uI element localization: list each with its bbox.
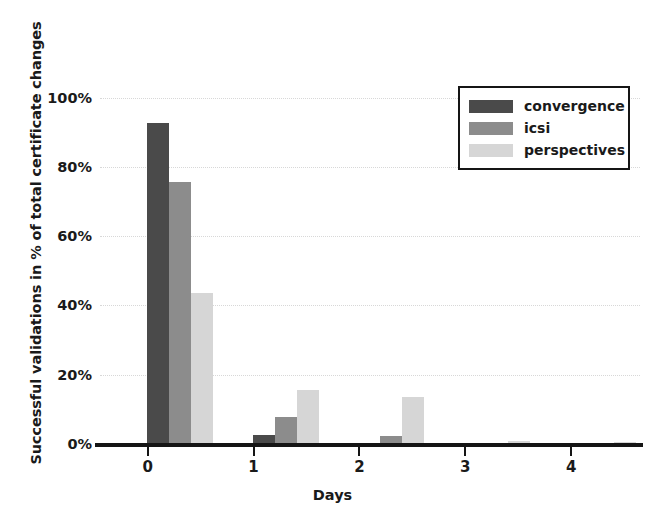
bar-perspectives-day-1 xyxy=(297,390,319,445)
x-tick-label: 1 xyxy=(234,458,274,476)
x-tick-label: 2 xyxy=(339,458,379,476)
legend-swatch-icon xyxy=(469,144,513,157)
legend-item-perspectives[interactable]: perspectives xyxy=(469,139,619,161)
x-axis-line xyxy=(95,443,643,447)
legend-label: convergence xyxy=(524,98,625,114)
x-tick-mark xyxy=(358,447,360,456)
x-axis-title: Days xyxy=(0,487,665,503)
legend: convergenceicsiperspectives xyxy=(458,86,630,170)
legend-item-convergence[interactable]: convergence xyxy=(469,95,619,117)
bar-perspectives-day-0 xyxy=(191,293,213,445)
bar-convergence-day-0 xyxy=(147,123,169,445)
bar-perspectives-day-2 xyxy=(402,397,424,445)
x-tick-mark xyxy=(570,447,572,456)
legend-swatch-icon xyxy=(469,122,513,135)
legend-label: icsi xyxy=(524,120,550,136)
bar-chart: Successful validations in % of total cer… xyxy=(0,0,665,530)
x-tick-label: 4 xyxy=(551,458,591,476)
bar-icsi-day-0 xyxy=(169,182,191,445)
bars-layer xyxy=(0,0,665,445)
legend-label: perspectives xyxy=(524,142,625,158)
x-tick-label: 3 xyxy=(445,458,485,476)
x-tick-mark xyxy=(253,447,255,456)
x-tick-mark xyxy=(464,447,466,456)
x-tick-label: 0 xyxy=(128,458,168,476)
legend-swatch-icon xyxy=(469,100,513,113)
legend-item-icsi[interactable]: icsi xyxy=(469,117,619,139)
x-tick-mark xyxy=(147,447,149,456)
bar-icsi-day-1 xyxy=(275,417,297,445)
